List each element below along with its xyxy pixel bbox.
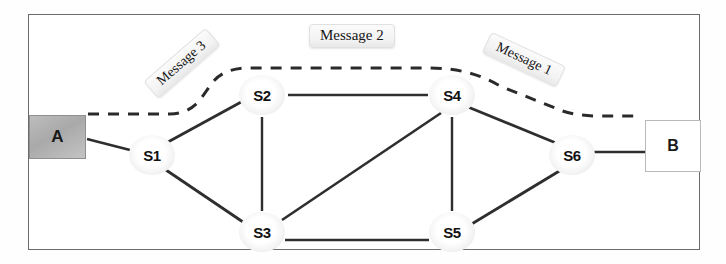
diagram-canvas: A B S1 S2 S3 S4 S5 S6 Message 3 Message … xyxy=(0,0,726,264)
switch-node-s3: S3 xyxy=(239,212,285,252)
host-b: B xyxy=(645,120,701,172)
link-s5-s6 xyxy=(470,170,561,225)
host-a-label: A xyxy=(51,127,63,147)
host-a: A xyxy=(29,115,86,159)
switch-node-s1: S1 xyxy=(129,135,175,175)
link-s3-s4 xyxy=(282,113,441,220)
switch-node-s5: S5 xyxy=(429,212,475,252)
host-b-label: B xyxy=(667,137,679,155)
switch-label-s1: S1 xyxy=(143,147,161,164)
switch-node-s6: S6 xyxy=(549,135,595,175)
message-2-label: Message 2 xyxy=(309,24,395,48)
switch-label-s4: S4 xyxy=(443,87,461,104)
switch-node-s4: S4 xyxy=(429,75,475,115)
link-s1-s3 xyxy=(166,170,243,222)
switch-label-s5: S5 xyxy=(443,224,461,241)
link-s1-s2 xyxy=(168,101,243,142)
switch-node-s2: S2 xyxy=(239,75,285,115)
switch-label-s2: S2 xyxy=(253,87,271,104)
link-s4-s6 xyxy=(468,107,556,143)
switch-label-s3: S3 xyxy=(253,224,271,241)
link-a-s1 xyxy=(87,139,130,150)
switch-label-s6: S6 xyxy=(563,147,581,164)
